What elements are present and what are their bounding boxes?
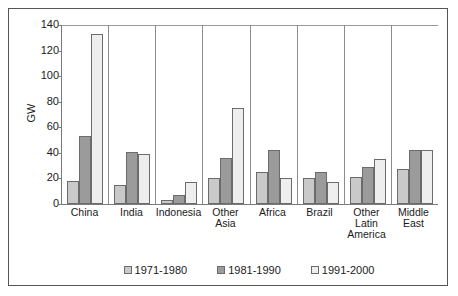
legend-swatch-icon — [311, 266, 319, 274]
y-axis-tick-20: 20 — [33, 172, 59, 183]
y-axis-tick-0: 0 — [33, 198, 59, 209]
bar[interactable] — [303, 178, 315, 204]
bar[interactable] — [397, 169, 409, 204]
bar-group-bars — [303, 25, 339, 204]
x-axis-tick-label: Other Asia — [202, 207, 249, 240]
bar-group-bars — [397, 25, 433, 204]
legend-item[interactable]: 1971-1980 — [124, 264, 188, 276]
y-axis-tickmark — [58, 204, 62, 205]
x-axis-tick-label: China — [61, 207, 108, 240]
bar[interactable] — [409, 150, 421, 204]
bar[interactable] — [126, 152, 138, 204]
x-axis-tick-label: Middle East — [390, 207, 437, 240]
legend-label: 1971-1980 — [135, 264, 188, 276]
y-axis-tickmark — [58, 178, 62, 179]
x-axis-tick-label: Brazil — [296, 207, 343, 240]
bar[interactable] — [67, 181, 79, 204]
bar[interactable] — [173, 195, 185, 204]
bar-group — [156, 25, 203, 204]
bar[interactable] — [220, 158, 232, 204]
y-axis-tickmark — [58, 25, 62, 26]
bar[interactable] — [185, 182, 197, 204]
y-axis-tick-140: 140 — [33, 19, 59, 30]
x-axis-tick-label: Indonesia — [155, 207, 202, 240]
bar-group-bars — [161, 25, 197, 204]
bar[interactable] — [374, 159, 386, 204]
bar[interactable] — [114, 185, 126, 204]
y-axis-tick-60: 60 — [33, 121, 59, 132]
bar-group — [251, 25, 298, 204]
legend-label: 1981-1990 — [228, 264, 281, 276]
bar[interactable] — [91, 34, 103, 204]
bar-group — [203, 25, 250, 204]
bar-group-bars — [114, 25, 150, 204]
y-axis-tick-80: 80 — [33, 96, 59, 107]
bar-group-bars — [350, 25, 386, 204]
bar[interactable] — [280, 178, 292, 204]
chart-legend: 1971-19801981-19901991-2000 — [61, 264, 437, 276]
y-axis-tickmark — [58, 76, 62, 77]
x-axis-tick-labels: ChinaIndiaIndonesiaOther AsiaAfricaBrazi… — [61, 207, 437, 240]
bar[interactable] — [256, 172, 268, 204]
legend-swatch-icon — [217, 266, 225, 274]
bar-group-bars — [256, 25, 292, 204]
bar[interactable] — [315, 172, 327, 204]
bar-group-bars — [208, 25, 244, 204]
chart-figure: GW 140120100806040200 ChinaIndiaIndonesi… — [8, 8, 448, 286]
chart-plot-area: GW 140120100806040200 ChinaIndiaIndonesi… — [9, 9, 449, 287]
bar[interactable] — [208, 178, 220, 204]
bar[interactable] — [138, 154, 150, 204]
legend-swatch-icon — [124, 266, 132, 274]
y-axis-tickmark — [58, 153, 62, 154]
bar-group — [392, 25, 438, 204]
bar[interactable] — [421, 150, 433, 204]
y-axis-tick-100: 100 — [33, 70, 59, 81]
bar[interactable] — [232, 108, 244, 204]
y-axis-tickmark — [58, 102, 62, 103]
bar-group — [62, 25, 109, 204]
y-axis-tickmark — [58, 51, 62, 52]
bar-group — [109, 25, 156, 204]
bar[interactable] — [327, 182, 339, 204]
y-axis-tick-40: 40 — [33, 147, 59, 158]
legend-item[interactable]: 1981-1990 — [217, 264, 281, 276]
x-axis-tick-label: Other Latin America — [343, 207, 390, 240]
bar[interactable] — [268, 150, 280, 204]
y-axis-tickmark — [58, 127, 62, 128]
x-axis-tick-label: India — [108, 207, 155, 240]
legend-item[interactable]: 1991-2000 — [311, 264, 375, 276]
bar-group — [298, 25, 345, 204]
y-axis-tick-labels: 140120100806040200 — [29, 9, 59, 287]
bar[interactable] — [350, 177, 362, 204]
bar[interactable] — [79, 136, 91, 204]
chart-axes — [61, 25, 438, 205]
y-axis-tick-120: 120 — [33, 45, 59, 56]
bar[interactable] — [161, 200, 173, 204]
legend-label: 1991-2000 — [322, 264, 375, 276]
bar[interactable] — [362, 167, 374, 204]
bar-groups — [62, 25, 438, 204]
bar-group-bars — [67, 25, 103, 204]
x-axis-tick-label: Africa — [249, 207, 296, 240]
bar-group — [345, 25, 392, 204]
